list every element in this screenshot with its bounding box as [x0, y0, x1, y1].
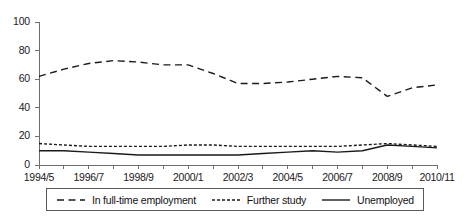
series-line-unemployed — [39, 145, 437, 155]
data-series-group — [39, 61, 437, 155]
line-chart: 020406080100 1994/51996/71998/92000/1200… — [0, 0, 470, 221]
chart-legend: In full-time employmentFurther studyUnem… — [46, 188, 424, 211]
legend-item: Unemployed — [321, 194, 414, 206]
series-line-in-full-time-employment — [39, 61, 437, 97]
legend-item-label: In full-time employment — [92, 194, 196, 206]
legend-swatch-short-dash — [211, 196, 241, 204]
legend-swatch-long-dash — [56, 196, 86, 204]
legend-item: In full-time employment — [56, 194, 196, 206]
legend-swatch-solid — [321, 196, 351, 204]
legend-item-label: Unemployed — [357, 194, 414, 206]
legend-item: Further study — [211, 194, 306, 206]
series-line-further-study — [39, 144, 437, 147]
legend-item-label: Further study — [247, 194, 306, 206]
